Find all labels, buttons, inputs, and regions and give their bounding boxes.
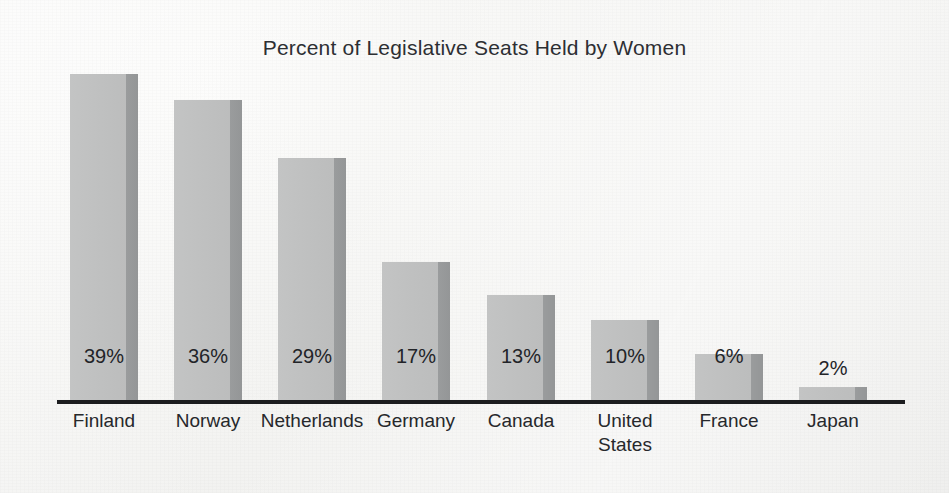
bar-value-united-states: 10% [591,345,659,368]
bar-germany [382,262,438,402]
chart-figure: Percent of Legislative Seats Held by Wom… [0,0,949,493]
x-tick-label-united-states: United States [565,409,685,457]
x-tick-label-germany: Germany [356,409,476,433]
x-tick-label-canada: Canada [461,409,581,433]
bar-value-finland: 39% [70,345,138,368]
x-axis-line [57,400,905,404]
x-tick-label-netherlands: Netherlands [252,409,372,433]
bar-side-germany [438,262,450,402]
x-tick-label-finland: Finland [44,409,164,433]
bar-value-germany: 17% [382,345,450,368]
plot-area: 39% 36% 29% 17% 13% [0,0,949,493]
x-tick-label-france: France [669,409,789,433]
x-tick-label-norway: Norway [148,409,268,433]
x-tick-label-japan: Japan [773,409,893,433]
bar-value-norway: 36% [174,345,242,368]
bar-value-france: 6% [695,345,763,368]
bar-value-netherlands: 29% [278,345,346,368]
bar-value-japan: 2% [799,357,867,380]
bar-value-canada: 13% [487,345,555,368]
